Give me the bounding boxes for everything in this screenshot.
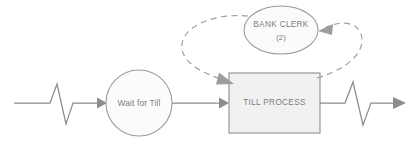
exit-flow-line (320, 82, 393, 125)
entry-flow-line (14, 84, 97, 124)
process-flow-diagram: Wait for Till TILL PROCESS (0, 0, 420, 146)
resource-label: BANK CLERK (253, 20, 309, 29)
resource-ellipse-shape (244, 6, 318, 54)
entry-flow-connector (14, 84, 107, 124)
clerk-seize-dashed-path (182, 16, 248, 80)
node-till-process[interactable]: TILL PROCESS (229, 73, 320, 133)
process-label: TILL PROCESS (243, 98, 306, 107)
node-wait-for-till[interactable]: Wait for Till (106, 70, 172, 136)
resource-count: (2) (276, 33, 286, 42)
queue-label: Wait for Till (117, 98, 160, 108)
exit-flow-connector (320, 82, 406, 125)
diagram-canvas: Wait for Till TILL PROCESS (0, 0, 420, 146)
arrowhead-icon-exit (393, 97, 406, 109)
arrowhead-icon-queue-out (219, 98, 229, 109)
arrowhead-icon-release (318, 24, 333, 35)
queue-to-process-connector (172, 98, 229, 109)
process-release-connector (317, 23, 362, 78)
node-bank-clerk[interactable]: BANK CLERK (2) (244, 6, 318, 54)
